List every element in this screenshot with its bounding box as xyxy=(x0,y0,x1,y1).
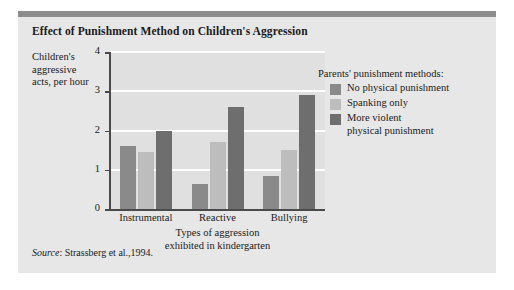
legend-swatch xyxy=(330,84,341,95)
legend-entry: Spanking only xyxy=(318,97,488,110)
legend-swatch xyxy=(330,99,341,110)
y-tick-label: 4 xyxy=(78,45,100,56)
bar xyxy=(156,131,172,210)
bar xyxy=(192,184,208,210)
legend-label: More violentphysical punishment xyxy=(347,112,434,137)
y-tick-label: 1 xyxy=(78,163,100,174)
source-text: : Strassberg et al.,1994. xyxy=(59,247,153,258)
y-axis-title: Children's aggressive acts, per hour xyxy=(32,51,96,89)
gridline xyxy=(110,51,325,53)
legend-label: No physical punishment xyxy=(347,82,449,95)
y-tick-mark xyxy=(105,52,109,54)
plot-area xyxy=(110,52,325,209)
gridline xyxy=(110,90,325,92)
y-tick-mark xyxy=(105,131,109,133)
legend-swatch xyxy=(330,114,341,125)
x-axis-group-label: Reactive xyxy=(182,212,254,223)
y-axis-line xyxy=(109,52,111,210)
legend-entry: More violentphysical punishment xyxy=(318,112,488,137)
y-tick-label: 3 xyxy=(78,84,100,95)
y-tick-mark xyxy=(105,209,109,211)
bar xyxy=(263,176,279,209)
chart-plot: Children's aggressive acts, per hour 012… xyxy=(18,11,496,273)
legend-label: Spanking only xyxy=(347,97,408,110)
bar xyxy=(120,146,136,209)
chart-legend: Parents' punishment methods: No physical… xyxy=(318,68,488,137)
x-axis-group-label: Bullying xyxy=(253,212,325,223)
figure-card: Effect of Punishment Method on Children'… xyxy=(18,11,496,273)
y-tick-label: 0 xyxy=(78,202,100,213)
gridline xyxy=(110,130,325,132)
bar xyxy=(210,142,226,209)
y-tick-label: 2 xyxy=(78,124,100,135)
bar xyxy=(299,95,315,209)
bar xyxy=(228,107,244,209)
y-tick-mark xyxy=(105,170,109,172)
legend-entry: No physical punishment xyxy=(318,82,488,95)
source-label: Source xyxy=(32,247,59,258)
bar xyxy=(138,152,154,209)
legend-title: Parents' punishment methods: xyxy=(318,68,488,79)
source-note: Source: Strassberg et al.,1994. xyxy=(32,247,153,258)
x-axis-line xyxy=(109,209,325,211)
y-tick-mark xyxy=(105,91,109,93)
bar xyxy=(281,150,297,209)
x-axis-group-label: Instrumental xyxy=(110,212,182,223)
